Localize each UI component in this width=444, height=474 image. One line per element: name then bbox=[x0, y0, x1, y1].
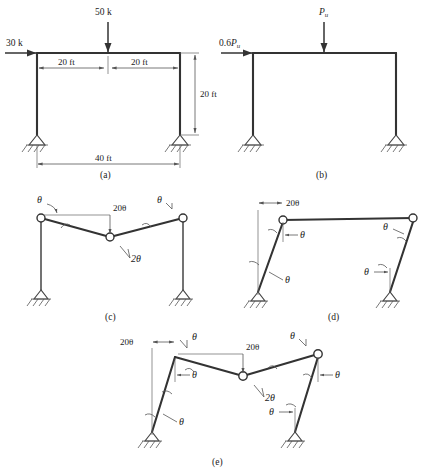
dimension-left-span-a-label: 20 ft bbox=[58, 57, 75, 67]
support-left-a bbox=[22, 135, 48, 152]
load-horizontal-a: 30 k bbox=[5, 38, 36, 53]
angle-center-e-label: 2θ bbox=[265, 392, 275, 403]
angle-beam-right-c-label: θ bbox=[157, 194, 162, 205]
dimension-spans-a: 20 ft 20 ft bbox=[39, 56, 178, 74]
displacement-sway-e-label: 20θ bbox=[120, 337, 133, 347]
panel-c: θ 20θ θ 2θ (c) bbox=[27, 194, 193, 323]
angle-left-base-d: θ bbox=[269, 272, 290, 285]
figure-container: 30 k 50 k 20 ft 20 ft 20 ft 40 ft bbox=[0, 0, 444, 474]
load-vertical-a: 50 k bbox=[95, 7, 112, 52]
angle-beam-right-c: θ bbox=[157, 194, 172, 209]
support-right-c bbox=[169, 290, 193, 306]
angle-right-joint-e: θ bbox=[290, 330, 306, 346]
beam-left-segment-c bbox=[41, 218, 110, 237]
angle-left-top-d-label: θ bbox=[300, 229, 305, 240]
beam-right-segment-c bbox=[110, 218, 183, 237]
support-left-b bbox=[238, 135, 264, 152]
panel-c-caption: (c) bbox=[105, 312, 116, 323]
panel-b: 0.6Pu Pu (b) bbox=[219, 7, 407, 181]
displacement-c-label: 20θ bbox=[113, 203, 126, 213]
angle-left-base-d-label: θ bbox=[285, 274, 290, 285]
angle-right-joint-e-label: θ bbox=[290, 330, 295, 341]
panel-a-caption: (a) bbox=[100, 170, 111, 181]
hinge-right-e bbox=[314, 350, 322, 358]
load-vertical-b-label: Pu bbox=[318, 7, 329, 18]
beam-left-segment-e bbox=[175, 357, 243, 376]
beam-right-segment-e bbox=[243, 354, 318, 376]
angle-right-base-e-label: θ bbox=[269, 406, 274, 417]
left-column-d bbox=[258, 222, 283, 292]
load-vertical-a-label: 50 k bbox=[95, 7, 112, 17]
angle-left-base-e: θ bbox=[163, 414, 184, 427]
displacement-beam-e-label: 20θ bbox=[246, 342, 259, 352]
hinge-right-d bbox=[409, 214, 417, 222]
support-right-d bbox=[376, 292, 400, 308]
dimension-total-a-label: 40 ft bbox=[95, 153, 112, 163]
angle-right-top-d: θ bbox=[383, 221, 404, 234]
angle-center-c-label: 2θ bbox=[131, 253, 141, 264]
frame-e bbox=[152, 354, 318, 432]
angle-left-column-e-label: θ bbox=[192, 369, 197, 380]
angle-center-c: 2θ bbox=[120, 246, 141, 264]
angle-right-base-d-label: θ bbox=[364, 266, 369, 277]
angle-right-base-d: θ bbox=[364, 266, 390, 292]
panel-d-caption: (d) bbox=[328, 312, 339, 323]
angle-beam-left-c: θ bbox=[37, 194, 57, 213]
displacement-d: 20θ bbox=[258, 198, 299, 295]
load-horizontal-b: 0.6Pu bbox=[219, 38, 252, 53]
dimension-height-a-label: 20 ft bbox=[200, 89, 217, 99]
angle-right-column-e-label: θ bbox=[335, 369, 340, 380]
angle-center-e: 2θ bbox=[254, 385, 275, 403]
panel-e-caption: (e) bbox=[212, 457, 223, 468]
support-left-e bbox=[138, 432, 162, 448]
hinge-right-c bbox=[179, 214, 187, 222]
support-right-e bbox=[281, 432, 305, 448]
angle-left-joint-e: θ bbox=[180, 331, 197, 348]
support-left-c bbox=[27, 290, 51, 306]
support-right-a bbox=[165, 135, 191, 152]
angle-right-top-d-label: θ bbox=[383, 221, 388, 232]
frame-b bbox=[253, 53, 396, 135]
angle-right-base-e: θ bbox=[269, 406, 295, 432]
right-column-e bbox=[295, 357, 318, 432]
beam-d bbox=[283, 218, 413, 220]
dimension-total-a: 40 ft bbox=[37, 145, 180, 168]
angle-right-column-e: θ bbox=[318, 358, 340, 382]
load-horizontal-a-label: 30 k bbox=[6, 38, 23, 48]
load-horizontal-b-label: 0.6Pu bbox=[219, 38, 241, 49]
panel-e: 20θ θ θ θ bbox=[120, 330, 340, 468]
panel-b-caption: (b) bbox=[316, 170, 327, 181]
angle-beam-left-c-label: θ bbox=[37, 194, 42, 205]
support-left-d bbox=[244, 292, 268, 308]
angle-left-top-d: θ bbox=[283, 222, 305, 242]
hinge-center-c bbox=[106, 233, 114, 241]
dimension-height-a: 20 ft bbox=[180, 53, 217, 135]
angle-left-joint-e-label: θ bbox=[192, 331, 197, 342]
support-right-b bbox=[381, 135, 407, 152]
left-column-e bbox=[152, 357, 175, 432]
frame-c bbox=[41, 218, 183, 290]
panel-d: 20θ θ θ θ θ (d) bbox=[244, 198, 417, 323]
hinge-center-e bbox=[239, 372, 247, 380]
angle-left-base-e-label: θ bbox=[179, 416, 184, 427]
displacement-d-label: 20θ bbox=[286, 198, 299, 208]
panel-a: 30 k 50 k 20 ft 20 ft 20 ft 40 ft bbox=[5, 7, 217, 181]
dimension-right-span-a-label: 20 ft bbox=[131, 57, 148, 67]
load-vertical-b: Pu bbox=[318, 7, 329, 52]
